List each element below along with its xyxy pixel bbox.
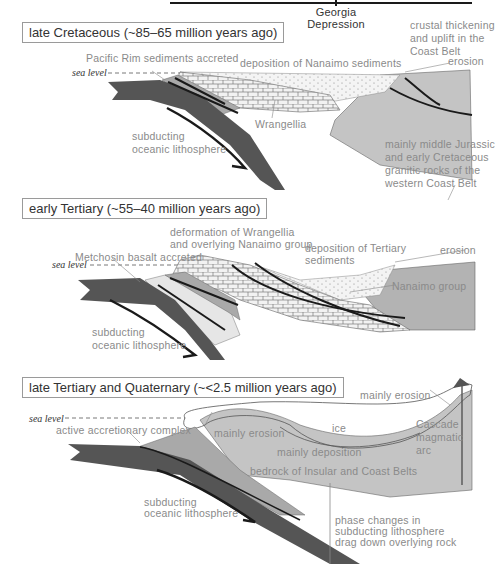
wrangellia-label: Wrangellia (255, 118, 306, 130)
subducting-label-1: subducting (92, 326, 145, 338)
deformation-label-2: and overlying Nanaimo group (170, 238, 313, 250)
period-title-late-cretaceous: late Cretaceous (~85–65 million years ag… (22, 22, 284, 43)
cascade-arc-label-3: arc (416, 444, 431, 456)
crustal-thickening-label-1: crustal thickening (410, 19, 495, 31)
nanaimo-group-label: Nanaimo group (392, 280, 466, 292)
mainly-erosion-left-label: mainly erosion (214, 427, 285, 439)
tertiary-deposition-label-2: sediments (305, 254, 355, 266)
granitic-label-1: mainly middle Jurassic (385, 138, 495, 150)
subducting-label-2: oceanic lithosphere (132, 143, 226, 155)
subducting-label-2: oceanic lithosphere (144, 507, 238, 519)
cascade-arc-label-1: Cascade (416, 418, 459, 430)
pacific-rim-label: Pacific Rim sediments accreted (86, 52, 238, 64)
sea-level-label: sea level (72, 67, 107, 78)
erosion-label: erosion (448, 55, 484, 67)
erosion-label: erosion (440, 244, 476, 256)
nanaimo-deposition-label: deposition of Nanaimo sediments (240, 57, 401, 69)
sea-level-label: sea level (52, 259, 87, 270)
granitic-label-2: and early Cretaceous (385, 151, 489, 163)
subducting-label-2: oceanic lithosphere (92, 339, 186, 351)
period-title-quaternary: late Tertiary and Quaternary (~<2.5 mill… (22, 377, 344, 398)
bedrock-label: bedrock of Insular and Coast Belts (250, 465, 417, 477)
period-title-early-tertiary: early Tertiary (~55–40 million years ago… (22, 198, 267, 219)
phase-changes-label-3: drag down overlying rock (335, 536, 457, 548)
subducting-label-1: subducting (132, 130, 185, 142)
georgia-depression-label: Georgia Depression (305, 6, 367, 30)
mainly-erosion-right-label: mainly erosion (360, 389, 431, 401)
deformation-label-1: deformation of Wrangellia (170, 226, 294, 238)
ice-label: ice (332, 422, 346, 434)
crustal-thickening-label-2: and uplift in the (410, 32, 485, 44)
cascade-arc-label-2: magmatic (416, 431, 463, 443)
accretionary-complex-label: active accretionary complex (56, 424, 191, 436)
metchosin-label: Metchosin basalt accreted (75, 251, 202, 263)
granitic-label-4: western Coast Belt (385, 177, 477, 189)
granitic-label-3: granitic rocks of the (385, 164, 480, 176)
sea-level-label: sea level (29, 413, 64, 424)
tertiary-deposition-label-1: deposition of Tertiary (305, 242, 406, 254)
mainly-deposition-label: mainly deposition (277, 446, 362, 458)
